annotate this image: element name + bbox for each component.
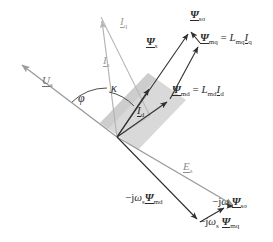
label-psi-s-sigma-text: Ψsσ: [190, 8, 205, 20]
label-psi-md-equation: Ψmd = LmdId: [172, 84, 224, 95]
label-psi-s-sigma: Ψsσ: [190, 9, 205, 20]
label-angle-kappa: κ: [111, 82, 117, 94]
label-is: Is: [103, 55, 109, 66]
label-neg-jw-psi-s-sigma-text: −jωsΨsσ: [212, 195, 247, 207]
label-angle-kappa-text: κ: [111, 82, 117, 94]
label-psi-md-text: Ψmd = LmdId: [172, 83, 224, 95]
label-psi-s: Ψs: [146, 36, 158, 47]
label-psi-mq-equation: Ψmq = LmqIq: [200, 32, 252, 43]
label-angle-phi-text: φ: [78, 92, 85, 104]
label-us-text: Us: [42, 74, 53, 86]
vector-neg-jw-psi-md: [117, 137, 197, 219]
label-id-text: Id: [137, 104, 144, 116]
label-es-text: Es: [183, 160, 192, 172]
vector-psi-s-sigma: [191, 32, 200, 43]
phasor-diagram-figure: Us Iq Is Ψs Ψsσ Ψmq = LmqIq Ψmd = LmdId …: [0, 0, 273, 242]
label-psi-mq-text: Ψmq = LmqIq: [200, 31, 252, 43]
label-iq: Iq: [120, 16, 127, 27]
label-neg-jw-psi-md-text: −jωsΨmd: [125, 191, 163, 203]
label-us: Us: [42, 75, 53, 86]
label-neg-jw-psi-s-sigma: −jωsΨsσ: [212, 196, 247, 207]
label-iq-text: Iq: [120, 15, 127, 27]
label-is-text: Is: [103, 54, 109, 66]
vector-us: [22, 65, 117, 137]
label-neg-jw-psi-mq-text: −jωs Ψmq: [199, 215, 239, 227]
label-psi-s-text: Ψs: [146, 35, 158, 47]
label-neg-jw-psi-mq: −jωs Ψmq: [199, 216, 239, 227]
label-es: Es: [183, 161, 192, 172]
label-neg-jw-psi-md: −jωsΨmd: [125, 192, 163, 203]
label-id: Id: [137, 105, 144, 116]
label-angle-phi: φ: [78, 92, 85, 104]
